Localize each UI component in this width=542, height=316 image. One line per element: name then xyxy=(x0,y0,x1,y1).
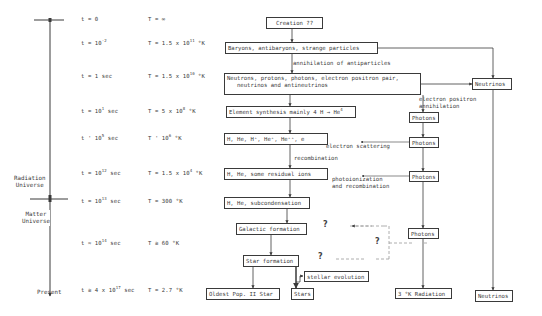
time-value: t = 10-2 xyxy=(81,41,107,47)
time-value: t ' 105 sec xyxy=(81,136,118,142)
question-mark-1: ? xyxy=(323,220,328,229)
creation-box: Creation ?? xyxy=(266,17,323,29)
radiation-universe-label: Radiation Universe xyxy=(14,175,45,189)
photoionization-label: photoionization and recombination xyxy=(332,176,389,189)
oldest-pop-ii-star-box: Oldest Pop. II Star xyxy=(206,288,280,300)
time-value: t = 1 sec xyxy=(81,74,112,80)
time-value: t = 1013 sec xyxy=(81,199,121,205)
time-value: t ≈ 1014 sec xyxy=(81,241,121,247)
temperature-value: T = 1.5 x 1011 °K xyxy=(148,41,205,47)
time-value: t ≅ 4 x 1017 sec xyxy=(81,288,135,294)
electron-scattering-label: electron scattering xyxy=(326,143,390,150)
neutrinos-box-top: Neutrinos xyxy=(472,78,512,90)
neutrinos-box-bottom: Neutrinos xyxy=(475,290,513,302)
time-value: t = 1012 sec xyxy=(81,171,121,177)
baryons-box: Baryons, antibaryons, strange particles xyxy=(225,42,378,54)
photons-box-2: Photons xyxy=(409,137,439,148)
temperature-value: T = 1.5 x 1010 °K xyxy=(148,74,205,80)
annihilation-label: annihilation of antiparticles xyxy=(293,60,391,67)
question-mark-2: ? xyxy=(318,252,323,261)
ions-box: H, He, H⁺, He⁺, He⁺⁺, e xyxy=(224,133,328,145)
residual-ions-box: H, He, some residual ions xyxy=(224,168,328,180)
photons-box-4: Photons xyxy=(408,228,439,239)
matter-universe-label: Matter Universe xyxy=(22,210,50,226)
recombination-label: recombination xyxy=(294,155,338,162)
temperature-value: T ' 106 °K xyxy=(148,136,182,142)
question-mark-3: ? xyxy=(375,237,380,246)
stars-box: Stars xyxy=(291,288,314,300)
temperature-value: T = ∞ xyxy=(148,17,165,23)
present-label: Present xyxy=(37,289,61,296)
element-synthesis-box: Element synthesis mainly 4 H → He4 xyxy=(226,106,356,118)
temperature-value: T = 5 x 108 °K xyxy=(148,109,196,115)
star-formation-box: Star formation xyxy=(243,255,299,267)
subcondensation-box: H, He, subcondensation xyxy=(224,197,310,209)
stellar-evolution-box: stellar evolution xyxy=(304,271,369,282)
temperature-value: T = 300 °K xyxy=(148,199,183,205)
temperature-value: T = 1.5 x 104 °K xyxy=(148,171,203,177)
temperature-value: T = 2.7 °K xyxy=(148,288,183,294)
photons-box-1: Photons xyxy=(409,112,439,123)
electron-positron-annihilation-label: electron positron annihilation xyxy=(419,96,476,109)
time-value: t = 0 xyxy=(81,17,98,23)
photons-box-3: Photons xyxy=(409,171,439,182)
galactic-formation-box: Galactic formation xyxy=(236,223,307,235)
time-value: t = 101 sec xyxy=(81,109,118,115)
3k-radiation-box: 3 °K Radiation xyxy=(395,288,452,299)
neutrons-protons-box: Neutrons, protons, photons, electron pos… xyxy=(224,73,421,95)
temperature-value: T ≅ 60 °K xyxy=(148,241,179,247)
